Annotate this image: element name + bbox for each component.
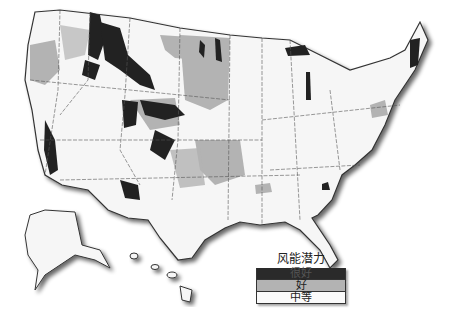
alaska: [25, 210, 110, 290]
legend: 风能潜力 很好 好 中等: [256, 250, 346, 304]
us-wind-potential-map: [0, 0, 463, 328]
legend-title: 风能潜力: [256, 250, 346, 268]
legend-item-moderate: 中等: [256, 292, 346, 304]
hawaii: [130, 253, 192, 302]
